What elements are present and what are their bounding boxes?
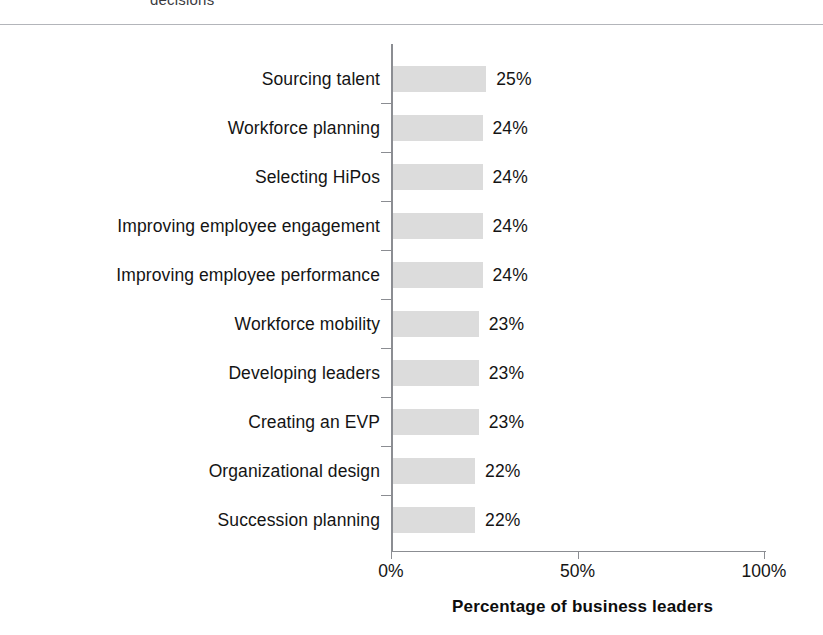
chart-page: decisions Sourcing talent25%Workforce pl… [0, 0, 823, 635]
category-label: Improving employee engagement [117, 215, 380, 236]
bar-value-label: 23% [489, 362, 524, 383]
value-axis-tick [391, 552, 392, 559]
bar-value-label: 22% [485, 460, 520, 481]
bar-row: Succession planning22% [0, 495, 823, 544]
category-label: Selecting HiPos [255, 166, 380, 187]
clipped-caption-text: decisions [150, 0, 214, 8]
header-divider [0, 24, 823, 25]
bar-value-label: 24% [493, 166, 528, 187]
value-axis-tick-label: 100% [742, 561, 787, 582]
bar [393, 164, 483, 190]
value-axis-tick-label: 0% [378, 561, 403, 582]
bar-row: Improving employee engagement24% [0, 201, 823, 250]
bar-chart-plot-area: Sourcing talent25%Workforce planning24%S… [0, 44, 823, 554]
category-label: Workforce mobility [235, 313, 380, 334]
bar-row: Developing leaders23% [0, 348, 823, 397]
value-axis-tick [578, 552, 579, 559]
category-label: Succession planning [218, 509, 380, 530]
bar-row: Organizational design22% [0, 446, 823, 495]
bar [393, 311, 479, 337]
bar-row: Improving employee performance24% [0, 250, 823, 299]
value-axis-line [391, 551, 766, 552]
bar-value-label: 23% [489, 313, 524, 334]
bar-row: Workforce mobility23% [0, 299, 823, 348]
bar [393, 458, 475, 484]
bar [393, 115, 483, 141]
bar-row: Sourcing talent25% [0, 54, 823, 103]
category-label: Organizational design [209, 460, 380, 481]
bar-row: Selecting HiPos24% [0, 152, 823, 201]
bar [393, 213, 483, 239]
category-label: Workforce planning [228, 117, 380, 138]
value-axis-tick [764, 552, 765, 559]
bar [393, 360, 479, 386]
value-axis-tick-label: 50% [560, 561, 595, 582]
bar [393, 262, 483, 288]
x-axis-title: Percentage of business leaders [0, 597, 823, 617]
bar [393, 507, 475, 533]
category-label: Developing leaders [228, 362, 380, 383]
bar-value-label: 24% [493, 264, 528, 285]
category-label: Improving employee performance [116, 264, 380, 285]
bar-row: Workforce planning24% [0, 103, 823, 152]
x-axis-title-text: Percentage of business leaders [452, 597, 713, 616]
category-label: Creating an EVP [248, 411, 380, 432]
bar-row: Creating an EVP23% [0, 397, 823, 446]
bar-value-label: 25% [496, 68, 531, 89]
bar-value-label: 24% [493, 215, 528, 236]
bar [393, 66, 486, 92]
bar [393, 409, 479, 435]
category-label: Sourcing talent [262, 68, 380, 89]
bar-value-label: 23% [489, 411, 524, 432]
bar-value-label: 22% [485, 509, 520, 530]
bar-value-label: 24% [493, 117, 528, 138]
